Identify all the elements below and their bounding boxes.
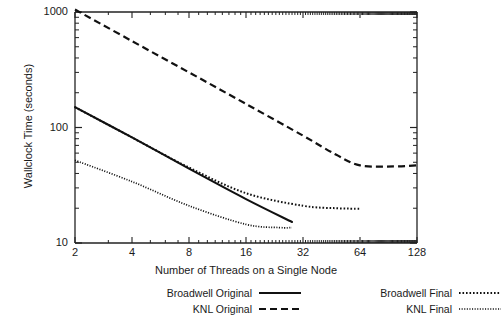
legend-label: KNL Original [193,303,252,315]
legend-swatch-fine-dotted [458,304,502,314]
y-tick-label: 1000 [28,5,68,17]
series-line [75,10,417,167]
y-tick-label: 100 [28,121,68,133]
legend-swatch-dotted [458,288,502,298]
legend-label: Broadwell Final [380,287,452,299]
data-series-group [75,10,417,228]
x-axis-title: Number of Threads on a Single Node [75,264,417,276]
legend-label: Broadwell Original [167,287,252,299]
series-line [75,107,360,209]
x-tick-label: 16 [226,246,266,258]
legend-swatch-solid [258,288,302,298]
chart-legend: Broadwell OriginalKNL OriginalBroadwell … [72,285,422,317]
axes-frame [75,12,417,243]
legend-entry: KNL Original [72,301,302,316]
x-tick-label: 32 [283,246,323,258]
legend-entry: KNL Final [302,301,502,316]
legend-swatch-dashed [258,304,302,314]
legend-entry: Broadwell Original [72,285,302,300]
tick-marks [75,12,417,243]
legend-entry: Broadwell Final [302,285,502,300]
y-tick-label: 10 [28,236,68,248]
x-tick-label: 128 [397,246,437,258]
series-line [75,160,292,228]
x-tick-label: 8 [169,246,209,258]
x-tick-label: 64 [340,246,380,258]
x-tick-label: 4 [112,246,152,258]
legend-label: KNL Final [406,303,452,315]
